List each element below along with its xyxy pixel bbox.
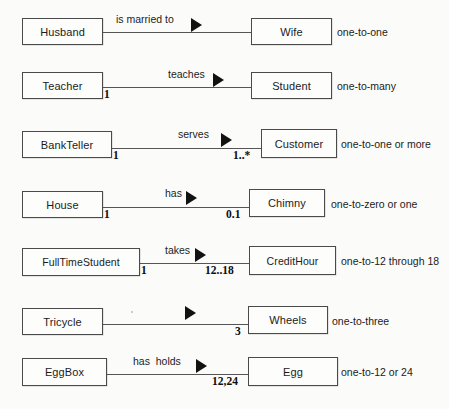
relationship-row: BankTeller 1 serves 1..* Customer one-to… — [0, 118, 449, 178]
relationship-row: Tricycle 3 Wheels one-to-three — [0, 294, 449, 352]
cardinality-description: one-to-12 or 24 — [341, 366, 413, 378]
relationship-label: is married to — [116, 13, 174, 25]
entity-box-left: Teacher — [22, 72, 103, 99]
relationship-label: teaches — [168, 68, 205, 80]
entity-label: FullTimeStudent — [42, 256, 120, 268]
cardinality-description: one-to-zero or one — [331, 198, 417, 210]
cardinality-left: 1 — [104, 88, 110, 100]
entity-box-left: Husband — [22, 18, 103, 45]
entity-label: EggBox — [45, 366, 84, 378]
relationship-label: has — [165, 187, 182, 199]
entity-label: Egg — [283, 366, 303, 378]
cardinality-description: one-to-12 through 18 — [341, 255, 439, 267]
arrow-head-icon — [221, 133, 232, 147]
cardinality-description: one-to-one — [337, 26, 388, 38]
entity-box-right: Wheels — [248, 306, 328, 334]
entity-label: Chimny — [268, 197, 306, 209]
entity-label: BankTeller — [41, 139, 93, 151]
cardinality-description: one-to-many — [337, 80, 396, 92]
cardinality-right: 12,24 — [212, 375, 238, 387]
cardinality-left: 1 — [104, 208, 110, 220]
entity-box-right: Customer — [261, 129, 337, 158]
relationship-label: has holds — [133, 355, 181, 367]
entity-label: CreditHour — [267, 255, 319, 267]
relationship-row: Teacher 1 teaches Student one-to-many — [0, 58, 449, 118]
cardinality-right: 0.1 — [226, 208, 240, 220]
arrow-head-icon — [186, 191, 197, 205]
relationship-row: FullTimeStudent 1 takes 12..18 CreditHou… — [0, 236, 449, 294]
arrow-head-icon — [195, 248, 206, 262]
scan-speck — [131, 311, 133, 313]
connector-line — [103, 32, 251, 33]
relationship-label: serves — [178, 128, 209, 140]
entity-label: Husband — [40, 26, 85, 38]
arrow-head-icon — [191, 18, 202, 32]
entity-box-left: BankTeller — [22, 131, 112, 158]
er-cardinality-diagram: Husband is married to Wife one-to-one Te… — [0, 0, 449, 409]
entity-box-right: CreditHour — [249, 246, 336, 275]
entity-box-left: FullTimeStudent — [22, 248, 140, 276]
entity-box-right: Student — [251, 72, 332, 99]
entity-label: Wheels — [269, 314, 306, 326]
entity-label: Tricycle — [43, 316, 81, 328]
connector-line — [103, 87, 251, 88]
cardinality-description: one-to-three — [332, 315, 389, 327]
entity-box-left: Tricycle — [22, 308, 103, 335]
entity-box-right: Chimny — [249, 189, 325, 217]
cardinality-right: 3 — [235, 325, 241, 337]
cardinality-description: one-to-one or more — [341, 138, 431, 150]
cardinality-right: 1..* — [233, 149, 250, 161]
connector-line — [103, 324, 248, 325]
arrow-head-icon — [213, 73, 224, 87]
entity-box-left: House — [22, 191, 103, 218]
entity-box-right: Wife — [251, 18, 332, 45]
relationship-row: EggBox has holds 12,24 Egg one-to-12 or … — [0, 352, 449, 409]
entity-label: Teacher — [43, 80, 83, 92]
arrow-head-icon — [185, 306, 196, 320]
cardinality-left: 1 — [113, 149, 119, 161]
arrow-head-icon — [196, 359, 207, 373]
entity-label: Student — [272, 80, 311, 92]
entity-label: Wife — [280, 26, 302, 38]
entity-box-left: EggBox — [22, 358, 107, 386]
relationship-row: Husband is married to Wife one-to-one — [0, 0, 449, 58]
cardinality-right: 12..18 — [205, 264, 234, 276]
relationship-row: House 1 has 0.1 Chimny one-to-zero or on… — [0, 178, 449, 236]
relationship-label: takes — [165, 244, 190, 256]
cardinality-left: 1 — [141, 264, 147, 276]
entity-box-right: Egg — [248, 357, 338, 386]
entity-label: House — [46, 199, 78, 211]
entity-label: Customer — [275, 138, 323, 150]
